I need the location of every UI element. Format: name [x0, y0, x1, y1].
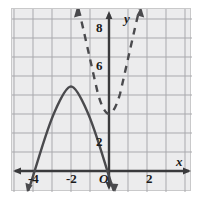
x-tick-2: 2 [146, 172, 153, 185]
y-tick-6: 6 [96, 59, 103, 72]
x-tick-neg4: -4 [28, 172, 39, 185]
y-axis-label: y [124, 12, 130, 25]
y-tick-8: 8 [96, 21, 103, 34]
parabola-graph-figure: y x O 8 6 2 -4 -2 2 [0, 0, 206, 209]
y-tick-2: 2 [96, 135, 103, 148]
x-axis-label: x [176, 155, 183, 168]
dashed-curve-left-arrowhead [74, 9, 82, 17]
x-tick-neg2: -2 [66, 172, 77, 185]
graph-canvas [12, 9, 192, 192]
plot-area [11, 8, 191, 191]
origin-label: O [99, 172, 108, 185]
grid-horizontal [12, 19, 192, 152]
